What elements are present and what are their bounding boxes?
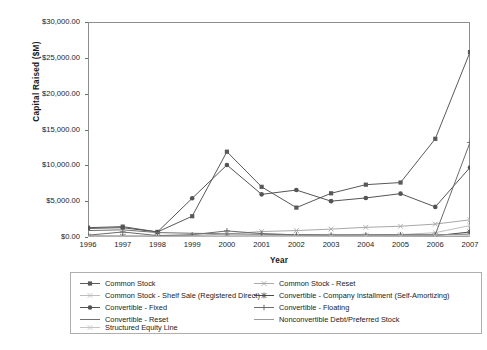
legend-marker-icon [253, 302, 275, 313]
plot-series-layer [88, 22, 470, 237]
legend-item-label: Convertible - Floating [279, 302, 349, 313]
y-axis-tick-label: $5,000.00 [8, 197, 80, 205]
legend-item-label: Nonconvertible Debt/Preferred Stock [279, 314, 399, 325]
x-axis-title: Year [88, 256, 470, 265]
legend-item-label: Structured Equity Line [105, 322, 178, 333]
x-axis-tick-label: 2007 [450, 240, 487, 250]
legend-item-label: Convertible - Fixed [105, 302, 167, 313]
y-axis-tick-label: $30,000.00 [8, 18, 80, 26]
chart-legend: Common StockCommon Stock - ResetCommon S… [70, 272, 482, 334]
y-axis-tick-label: $25,000.00 [8, 54, 80, 62]
y-axis-tick-mark [85, 237, 88, 238]
legend-item[interactable]: Structured Equity Line [79, 321, 178, 333]
legend-item[interactable]: Convertible - Floating [253, 301, 349, 313]
legend-marker-icon [79, 302, 101, 313]
legend-item[interactable]: Convertible - Fixed [79, 301, 167, 313]
legend-item[interactable]: Common Stock [79, 277, 156, 289]
legend-item[interactable]: Common Stock - Shelf Sale (Registered Di… [79, 289, 260, 301]
chart-series [88, 140, 470, 237]
y-axis-tick-label: $20,000.00 [8, 90, 80, 98]
legend-marker-icon [253, 278, 275, 289]
legend-item-label: Common Stock [105, 278, 156, 289]
legend-item-label: Convertible - Company Installment (Self-… [279, 290, 449, 301]
legend-item[interactable]: Common Stock - Reset [253, 277, 355, 289]
legend-item[interactable]: Nonconvertible Debt/Preferred Stock [253, 313, 399, 325]
chart-series [88, 50, 470, 234]
y-axis-tick-label: $15,000.00 [8, 126, 80, 134]
legend-marker-icon [79, 278, 101, 289]
legend-item-label: Common Stock - Reset [279, 278, 355, 289]
chart-series [88, 163, 470, 235]
legend-item[interactable]: Convertible - Company Installment (Self-… [253, 289, 449, 301]
chart-container: Capital Raised ($M) $0.00$5,000.00$10,00… [0, 0, 487, 350]
legend-marker-icon [253, 290, 275, 301]
legend-marker-icon [79, 322, 101, 333]
legend-marker-icon [79, 290, 101, 301]
y-axis-tick-label: $10,000.00 [8, 161, 80, 169]
legend-marker-icon [253, 314, 275, 325]
legend-item-label: Common Stock - Shelf Sale (Registered Di… [105, 290, 260, 301]
x-axis-tick-labels: 1996199719981999200020012002200320042005… [88, 240, 470, 252]
